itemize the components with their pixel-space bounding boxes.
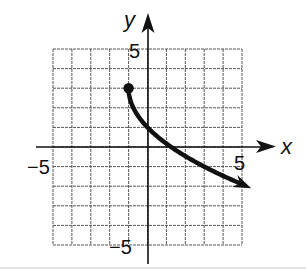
function-curve	[123, 83, 251, 188]
x-axis-label: x	[280, 134, 293, 159]
x-min-tick-label: −5	[27, 156, 50, 178]
closed-endpoint-dot	[123, 83, 133, 93]
y-max-tick-label: 5	[129, 40, 140, 62]
y-min-tick-label: −5	[109, 236, 132, 258]
y-axis-label: y	[122, 7, 137, 32]
curve-path	[129, 88, 244, 185]
graph-canvas: y x 5 −5 −5 5	[0, 0, 306, 277]
x-max-tick-label: 5	[234, 152, 245, 174]
